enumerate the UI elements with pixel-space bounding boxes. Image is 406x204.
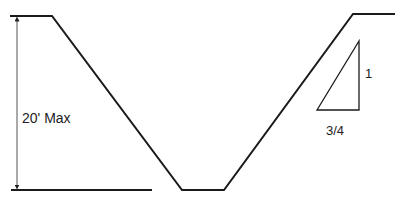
trench-profile bbox=[10, 14, 395, 190]
slope-ratio-triangle bbox=[317, 41, 359, 110]
trench-diagram: 20' Max 1 3/4 bbox=[0, 0, 406, 204]
slope-run-label: 3/4 bbox=[326, 123, 344, 138]
slope-rise-label: 1 bbox=[365, 66, 372, 81]
depth-label: 20' Max bbox=[22, 110, 71, 126]
